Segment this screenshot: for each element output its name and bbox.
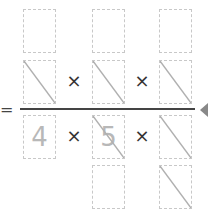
denominator-cell-r2-c3[interactable] xyxy=(159,165,192,209)
fraction-bar xyxy=(20,108,195,110)
numerator-cell-r1-c1[interactable] xyxy=(23,9,56,53)
digit: 4 xyxy=(24,116,55,158)
numerator-cell-r1-c2[interactable] xyxy=(92,9,125,53)
strike-slash-icon xyxy=(93,61,124,103)
times-sign: × xyxy=(134,72,150,90)
strike-slash-icon xyxy=(160,166,191,208)
strike-slash-icon xyxy=(160,116,191,158)
numerator-cell-r2-c1[interactable] xyxy=(23,60,56,104)
equals-sign: = xyxy=(0,102,13,118)
times-sign: × xyxy=(66,127,82,145)
denominator-cell-r1-c2[interactable]: 5 xyxy=(92,115,125,159)
numerator-cell-r2-c2[interactable] xyxy=(92,60,125,104)
strike-slash-icon xyxy=(160,61,191,103)
times-sign: × xyxy=(134,127,150,145)
pointer-arrow-icon[interactable] xyxy=(200,103,208,117)
strike-slash-icon xyxy=(24,61,55,103)
numerator-cell-r2-c3[interactable] xyxy=(159,60,192,104)
times-sign: × xyxy=(66,72,82,90)
denominator-cell-r1-c1[interactable]: 4 xyxy=(23,115,56,159)
strike-slash-icon xyxy=(93,116,124,158)
numerator-cell-r1-c3[interactable] xyxy=(159,9,192,53)
denominator-cell-r2-c2[interactable] xyxy=(92,165,125,209)
denominator-cell-r1-c3[interactable] xyxy=(159,115,192,159)
